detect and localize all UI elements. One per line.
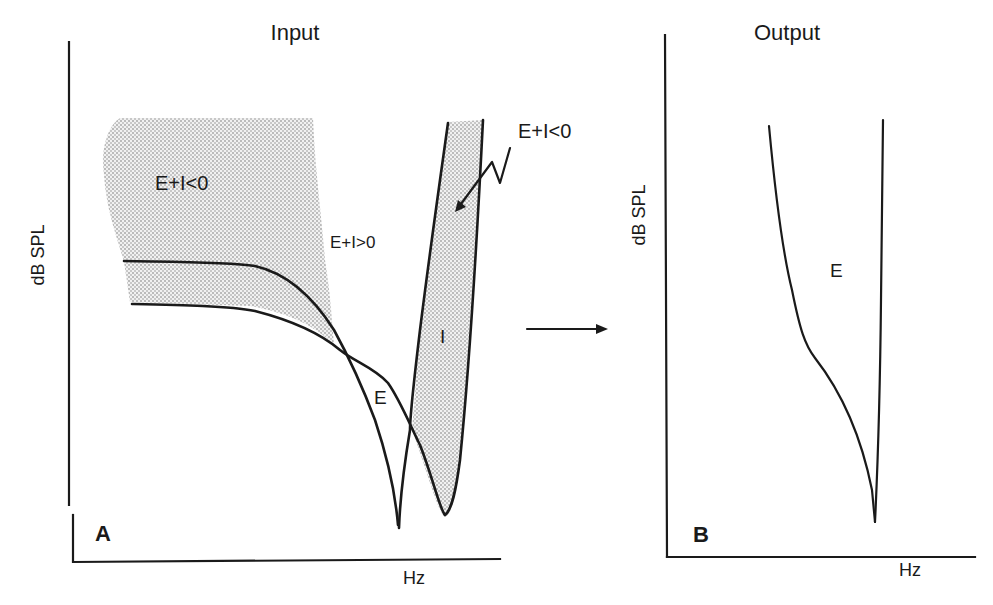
transform-arrow (527, 324, 608, 334)
arrow-right-icon (596, 324, 608, 334)
panel-a-y-axis-label: dB SPL (28, 224, 48, 285)
output-excitatory-curve (769, 126, 875, 522)
panel-a-title: Input (271, 20, 320, 45)
panel-a-x-axis (73, 559, 500, 562)
panel-b-title: Output (754, 20, 820, 45)
inhibitory-region-left (103, 118, 334, 345)
panel-b-y-axis-label: dB SPL (629, 184, 649, 245)
region-label-callout: E+I<0 (518, 120, 571, 142)
panel-a-label: A (95, 521, 111, 546)
output-excitatory-label: E (830, 260, 843, 281)
panel-a: Input dB SPL Hz E+I<0 E+I>0 E+I<0 E I A (28, 20, 571, 588)
output-curve-right (875, 120, 883, 522)
panel-b: Output dB SPL Hz E B (629, 20, 975, 580)
figure-canvas: Input dB SPL Hz E+I<0 E+I>0 E+I<0 E I A (0, 0, 993, 605)
panel-b-x-axis-label: Hz (899, 560, 921, 580)
panel-b-label: B (693, 522, 709, 547)
region-label-left: E+I<0 (155, 172, 208, 194)
panel-a-x-axis-label: Hz (403, 568, 425, 588)
inhibitory-curve-label: I (440, 326, 445, 347)
excitatory-curve-label: E (374, 387, 387, 408)
panel-b-y-axis (665, 35, 667, 557)
region-label-middle: E+I>0 (330, 233, 375, 252)
